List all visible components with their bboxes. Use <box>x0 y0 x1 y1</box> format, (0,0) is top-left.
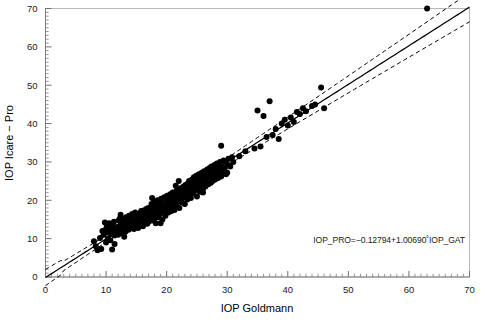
x-tick-label: 30 <box>222 284 233 295</box>
data-point <box>255 108 261 114</box>
data-point <box>261 113 267 119</box>
scatter-plot-figure: 010203040506070 010203040506070 IOP_PRO=… <box>0 0 485 323</box>
y-tick-label: 60 <box>27 41 38 52</box>
x-tick-label: 40 <box>282 284 293 295</box>
data-point <box>236 153 242 159</box>
x-tick-label: 70 <box>464 284 475 295</box>
data-point <box>158 220 164 226</box>
iop-agreement-scatter-chart: 010203040506070 010203040506070 IOP_PRO=… <box>0 0 485 323</box>
y-tick-label: 20 <box>27 195 38 206</box>
data-point <box>267 98 273 104</box>
data-point <box>138 208 144 214</box>
data-point <box>318 85 324 91</box>
x-tick-label: 10 <box>101 284 112 295</box>
data-point <box>273 126 279 132</box>
data-point <box>176 178 182 184</box>
data-point <box>230 159 236 165</box>
data-point <box>109 246 115 252</box>
data-point <box>200 190 206 196</box>
y-tick-label: 0 <box>32 271 37 282</box>
data-point <box>303 108 309 114</box>
x-tick-label: 50 <box>343 284 354 295</box>
data-point <box>264 134 270 140</box>
x-tick-label: 60 <box>404 284 415 295</box>
data-point <box>291 119 297 125</box>
x-axis-title: IOP Goldmann <box>221 302 294 314</box>
data-point <box>297 111 303 117</box>
data-point <box>270 132 276 138</box>
data-point <box>224 170 230 176</box>
data-point <box>112 241 118 247</box>
y-tick-label: 70 <box>27 3 38 14</box>
data-point <box>149 195 155 201</box>
data-point <box>276 136 282 142</box>
regression-equation-annotation: IOP_PRO=−0.12794+1.00690˚IOP_GAT <box>313 235 466 245</box>
data-point <box>258 144 264 150</box>
data-point <box>218 143 224 149</box>
x-tick-label: 0 <box>43 284 48 295</box>
data-point <box>282 117 288 123</box>
data-point <box>251 146 257 152</box>
data-point <box>285 122 291 128</box>
y-tick-label: 30 <box>27 156 38 167</box>
data-point <box>424 6 430 12</box>
y-axis-title: IOP Icare − Pro <box>3 105 15 181</box>
data-point <box>118 212 124 218</box>
x-tick-label: 20 <box>161 284 172 295</box>
y-tick-label: 50 <box>27 80 38 91</box>
data-point <box>121 234 127 240</box>
data-point <box>242 148 248 154</box>
chart-background <box>0 0 485 323</box>
data-point <box>98 246 104 252</box>
y-tick-label: 40 <box>27 118 38 129</box>
data-point <box>321 105 327 111</box>
data-point <box>176 205 182 211</box>
y-tick-label: 10 <box>27 233 38 244</box>
data-point <box>312 101 318 107</box>
